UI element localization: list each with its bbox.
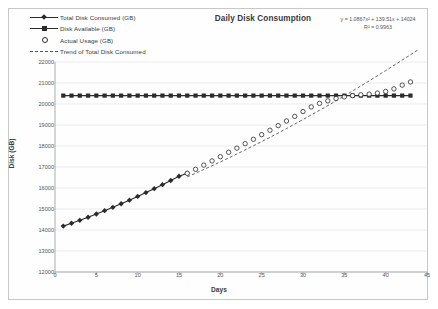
x-axis-tick-label: 5 [84,272,108,278]
y-axis-tick-label: 20000 [8,101,54,107]
y-axis-tick-label: 16000 [8,185,54,191]
x-axis-tick-label: 20 [208,272,232,278]
x-axis-tick-label: 45 [415,272,438,278]
x-axis-tick-label: 25 [250,272,274,278]
x-axis-ticks: 051015202530354045 [0,272,438,284]
y-axis-tick-label: 13000 [8,248,54,254]
y-axis-tick-label: 15000 [8,206,54,212]
x-axis-tick-label: 35 [332,272,356,278]
x-axis-tick-label: 40 [374,272,398,278]
y-axis-tick-label: 17000 [8,164,54,170]
y-axis-tick-label: 18000 [8,143,54,149]
y-axis-label: Disk (GB) [8,138,15,168]
x-axis-label: Days [0,286,438,293]
y-axis-tick-label: 21000 [8,80,54,86]
x-axis-tick-label: 0 [43,272,67,278]
x-axis-tick-label: 15 [167,272,191,278]
plot-canvas [0,0,438,309]
y-axis-tick-label: 19000 [8,122,54,128]
x-axis-tick-label: 10 [126,272,150,278]
x-axis-tick-label: 30 [291,272,315,278]
plot-area [0,0,438,309]
y-axis-tick-label: 22000 [8,59,54,65]
y-axis-tick-label: 14000 [8,227,54,233]
